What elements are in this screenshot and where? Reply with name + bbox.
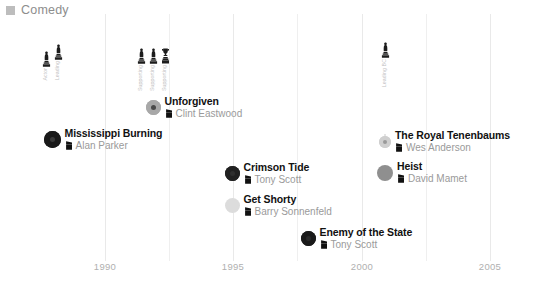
film-entry[interactable]: Mississippi BurningAlan Parker xyxy=(44,128,163,151)
award-oscar-statuette[interactable]: Leading BC xyxy=(380,42,390,87)
film-title[interactable]: Enemy of the State xyxy=(320,227,413,238)
film-text-block: Mississippi BurningAlan Parker xyxy=(65,128,163,151)
film-entry[interactable]: Enemy of the StateTony Scott xyxy=(301,227,413,250)
film-title[interactable]: Get Shorty xyxy=(244,194,332,205)
film-title[interactable]: The Royal Tenenbaums xyxy=(395,130,510,141)
award-oscar-statuette[interactable]: Leading xyxy=(53,44,63,80)
award-oscar-statuette[interactable]: Supporting xyxy=(148,48,158,91)
film-director-row: Clint Eastwood xyxy=(165,108,243,119)
axis-tick-label: 2005 xyxy=(479,261,501,272)
film-marker-center xyxy=(230,171,235,176)
film-title[interactable]: Heist xyxy=(397,161,467,172)
oscar-statuette-icon xyxy=(381,42,390,58)
director-clapperboard-icon xyxy=(165,109,173,118)
gridline-2000 xyxy=(362,14,363,261)
award-category-label: Supporting xyxy=(150,65,155,91)
award-group[interactable]: SupportingSupportingSupporting xyxy=(136,48,170,91)
gridline-1995 xyxy=(233,14,234,261)
film-director-name[interactable]: Wes Anderson xyxy=(406,142,471,153)
film-text-block: Get ShortyBarry Sonnenfeld xyxy=(244,194,332,217)
film-entry[interactable]: Crimson TideTony Scott xyxy=(225,162,310,185)
award-group[interactable]: ActorLeading xyxy=(41,44,63,80)
film-title[interactable]: Unforgiven xyxy=(165,96,243,107)
oscar-trophy-icon xyxy=(161,48,170,64)
oscar-statuette-icon xyxy=(42,51,51,67)
film-marker[interactable] xyxy=(44,131,61,148)
film-director-row: Tony Scott xyxy=(244,174,310,185)
film-title[interactable]: Mississippi Burning xyxy=(65,128,163,139)
film-marker-center xyxy=(383,140,387,144)
film-text-block: HeistDavid Mamet xyxy=(397,161,467,184)
film-marker[interactable] xyxy=(377,165,393,181)
oscar-statuette-icon xyxy=(137,48,146,64)
director-clapperboard-icon xyxy=(395,143,403,152)
film-text-block: Enemy of the StateTony Scott xyxy=(320,227,413,250)
film-entry[interactable]: The Royal TenenbaumsWes Anderson xyxy=(379,130,510,153)
oscar-statuette-icon xyxy=(149,48,158,64)
film-director-name[interactable]: David Mamet xyxy=(408,173,467,184)
film-marker[interactable] xyxy=(146,100,161,115)
director-clapperboard-icon xyxy=(244,175,252,184)
award-oscar-trophy[interactable]: Supporting xyxy=(160,48,170,91)
director-clapperboard-icon xyxy=(397,174,405,183)
film-director-name[interactable]: Tony Scott xyxy=(255,174,302,185)
axis-tick-label: 1990 xyxy=(94,261,116,272)
gridline-minor-1 xyxy=(297,14,298,261)
film-text-block: Crimson TideTony Scott xyxy=(244,162,310,185)
film-director-row: David Mamet xyxy=(397,173,467,184)
film-director-name[interactable]: Tony Scott xyxy=(331,239,378,250)
film-director-row: Tony Scott xyxy=(320,239,413,250)
film-text-block: UnforgivenClint Eastwood xyxy=(165,96,243,119)
film-director-name[interactable]: Clint Eastwood xyxy=(176,108,243,119)
film-entry[interactable]: HeistDavid Mamet xyxy=(377,161,467,184)
film-marker-center xyxy=(306,236,311,241)
film-marker[interactable] xyxy=(301,231,316,246)
timeline-plot: 1990199520002005ActorLeadingMississippi … xyxy=(0,0,537,288)
director-clapperboard-icon xyxy=(65,141,73,150)
award-category-label: Leading xyxy=(55,61,60,80)
film-director-row: Wes Anderson xyxy=(395,142,510,153)
film-title[interactable]: Crimson Tide xyxy=(244,162,310,173)
director-clapperboard-icon xyxy=(244,207,252,216)
award-category-label: Supporting xyxy=(138,65,143,91)
film-marker[interactable] xyxy=(379,136,391,148)
film-marker-center xyxy=(50,137,55,142)
film-director-name[interactable]: Alan Parker xyxy=(76,140,128,151)
film-director-name[interactable]: Barry Sonnenfeld xyxy=(255,206,332,217)
award-category-label: Actor xyxy=(43,68,48,81)
axis-tick-label: 2000 xyxy=(351,261,373,272)
film-marker-center xyxy=(151,105,156,110)
film-director-row: Barry Sonnenfeld xyxy=(244,206,332,217)
award-category-label: Leading BC xyxy=(382,59,387,87)
film-marker[interactable] xyxy=(225,198,240,213)
award-oscar-statuette[interactable]: Supporting xyxy=(136,48,146,91)
film-director-row: Alan Parker xyxy=(65,140,163,151)
award-group[interactable]: Leading BC xyxy=(380,42,390,87)
director-clapperboard-icon xyxy=(320,240,328,249)
film-entry[interactable]: UnforgivenClint Eastwood xyxy=(146,96,243,119)
award-category-label: Supporting xyxy=(162,65,167,91)
award-oscar-statuette[interactable]: Actor xyxy=(41,51,51,81)
oscar-statuette-icon xyxy=(54,44,63,60)
film-marker[interactable] xyxy=(225,166,240,181)
film-text-block: The Royal TenenbaumsWes Anderson xyxy=(395,130,510,153)
film-entry[interactable]: Get ShortyBarry Sonnenfeld xyxy=(225,194,332,217)
axis-tick-label: 1995 xyxy=(222,261,244,272)
